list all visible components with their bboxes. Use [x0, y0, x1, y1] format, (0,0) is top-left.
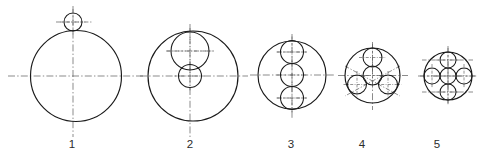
figure-group-1: 1 [8, 6, 144, 150]
figure-caption-1: 1 [69, 138, 75, 150]
technical-drawing-sheet: 12345 [0, 0, 480, 159]
figure-group-3: 3 [250, 34, 336, 150]
figure-caption-4: 4 [359, 138, 366, 150]
figure-group-4: 4 [338, 42, 408, 150]
circle-packing-figures-svg: 12345 [0, 0, 480, 159]
figure-group-2: 2 [140, 24, 248, 150]
figure-caption-3: 3 [288, 138, 294, 150]
figure-caption-5: 5 [434, 138, 440, 150]
figure-group-5: 5 [418, 46, 478, 150]
figure-caption-2: 2 [187, 138, 193, 150]
